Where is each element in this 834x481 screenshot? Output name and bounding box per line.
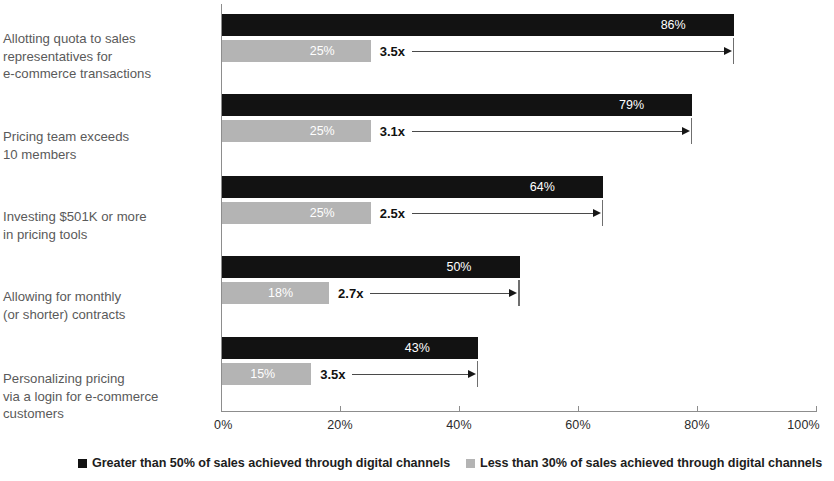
bar-value-label: 50% bbox=[446, 260, 471, 274]
x-axis-tick-label: 80% bbox=[684, 418, 710, 432]
bar-low-digital: 25% bbox=[222, 202, 371, 224]
multiplier-annotation: 2.7x bbox=[338, 282, 518, 304]
arrow-icon bbox=[682, 127, 690, 135]
category-label-line: 10 members bbox=[3, 146, 208, 164]
bar-low-digital: 25% bbox=[222, 40, 371, 62]
category-label: Allotting quota to salesrepresentatives … bbox=[3, 30, 208, 83]
multiplier-annotation: 3.1x bbox=[380, 120, 691, 142]
bar-high-digital: 64% bbox=[222, 176, 603, 198]
multiplier-annotation: 3.5x bbox=[380, 40, 733, 62]
multiplier-annotation: 3.5x bbox=[320, 363, 477, 385]
x-axis-tick-label: 100% bbox=[787, 418, 820, 432]
bar-value-label: 86% bbox=[661, 18, 686, 32]
x-axis-tick-label: 0% bbox=[214, 418, 232, 432]
x-axis-tick bbox=[459, 406, 460, 412]
multiplier-endcap bbox=[691, 118, 692, 144]
legend-label: Less than 30% of sales achieved through … bbox=[480, 456, 822, 470]
legend-swatch-icon bbox=[466, 459, 475, 468]
bar-value-label: 25% bbox=[310, 124, 335, 138]
legend-item[interactable]: Less than 30% of sales achieved through … bbox=[466, 456, 822, 470]
multiplier-line bbox=[352, 374, 469, 375]
bar-high-digital: 86% bbox=[222, 14, 734, 36]
bar-value-label: 64% bbox=[530, 180, 555, 194]
bar-low-digital: 18% bbox=[222, 282, 329, 304]
multiplier-label: 3.5x bbox=[380, 44, 405, 59]
category-label-line: Investing $501K or more bbox=[3, 208, 208, 226]
category-label-line: e-commerce transactions bbox=[3, 65, 208, 83]
bar-value-label: 25% bbox=[310, 206, 335, 220]
bar-high-digital: 50% bbox=[222, 256, 520, 278]
x-axis-tick-label: 60% bbox=[565, 418, 591, 432]
category-label: Pricing team exceeds10 members bbox=[3, 128, 208, 163]
bar-low-digital: 15% bbox=[222, 363, 311, 385]
legend-label: Greater than 50% of sales achieved throu… bbox=[92, 456, 450, 470]
x-axis-tick bbox=[578, 406, 579, 412]
category-label-line: Personalizing pricing bbox=[3, 370, 208, 388]
bar-high-digital: 79% bbox=[222, 94, 692, 116]
arrow-icon bbox=[724, 47, 732, 55]
legend-swatch-icon bbox=[78, 459, 87, 468]
multiplier-endcap bbox=[477, 361, 478, 387]
bar-value-label: 79% bbox=[619, 98, 644, 112]
category-label-line: Pricing team exceeds bbox=[3, 128, 208, 146]
arrow-icon bbox=[509, 289, 517, 297]
x-axis-tick bbox=[816, 406, 817, 412]
category-label: Investing $501K or morein pricing tools bbox=[3, 208, 208, 243]
multiplier-endcap bbox=[602, 200, 603, 226]
arrow-icon bbox=[468, 370, 476, 378]
bar-chart: 0%20%40%60%80%100% Allotting quota to sa… bbox=[0, 0, 834, 445]
category-label-line: in pricing tools bbox=[3, 226, 208, 244]
category-label-line: customers bbox=[3, 405, 208, 423]
multiplier-endcap bbox=[518, 280, 519, 306]
category-label-line: via a login for e-commerce bbox=[3, 388, 208, 406]
chart-legend: Greater than 50% of sales achieved throu… bbox=[0, 452, 834, 478]
multiplier-line bbox=[370, 293, 510, 294]
category-label-line: representatives for bbox=[3, 48, 208, 66]
bar-value-label: 18% bbox=[268, 286, 293, 300]
multiplier-label: 2.7x bbox=[338, 286, 363, 301]
x-axis-tick-label: 40% bbox=[446, 418, 472, 432]
bar-value-label: 43% bbox=[405, 341, 430, 355]
multiplier-label: 3.5x bbox=[320, 367, 345, 382]
x-axis-line bbox=[221, 411, 817, 412]
category-label: Allowing for monthly(or shorter) contrac… bbox=[3, 288, 208, 323]
category-label-line: Allotting quota to sales bbox=[3, 30, 208, 48]
multiplier-line bbox=[412, 51, 725, 52]
bar-high-digital: 43% bbox=[222, 337, 478, 359]
multiplier-line bbox=[412, 213, 594, 214]
x-axis-tick-label: 20% bbox=[327, 418, 353, 432]
bar-low-digital: 25% bbox=[222, 120, 371, 142]
x-axis-tick bbox=[697, 406, 698, 412]
category-label-line: (or shorter) contracts bbox=[3, 306, 208, 324]
bar-value-label: 15% bbox=[250, 367, 275, 381]
category-label: Personalizing pricingvia a login for e-c… bbox=[3, 370, 208, 423]
bar-value-label: 25% bbox=[310, 44, 335, 58]
multiplier-label: 3.1x bbox=[380, 124, 405, 139]
category-label-line: Allowing for monthly bbox=[3, 288, 208, 306]
legend-item[interactable]: Greater than 50% of sales achieved throu… bbox=[78, 456, 450, 470]
x-axis-tick bbox=[221, 406, 222, 412]
arrow-icon bbox=[593, 209, 601, 217]
multiplier-annotation: 2.5x bbox=[380, 202, 602, 224]
multiplier-endcap bbox=[733, 38, 734, 64]
multiplier-label: 2.5x bbox=[380, 206, 405, 221]
x-axis-tick bbox=[340, 406, 341, 412]
multiplier-line bbox=[412, 131, 683, 132]
